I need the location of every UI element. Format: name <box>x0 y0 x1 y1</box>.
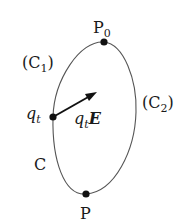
label-c2: (C2) <box>142 93 174 115</box>
label-p0: P0 <box>93 18 111 40</box>
label-c1: (C1) <box>22 53 54 75</box>
label-force-qtE: qtE <box>74 109 102 131</box>
arrow-head-icon <box>85 92 97 101</box>
label-p: P <box>80 204 91 223</box>
point-p <box>82 190 89 197</box>
closed-path-diagram: P0 (C1) (C2) qt qtE C P <box>0 0 189 224</box>
label-c: C <box>34 155 46 174</box>
label-qt: qt <box>26 104 41 126</box>
force-arrow-shaft <box>53 96 90 117</box>
